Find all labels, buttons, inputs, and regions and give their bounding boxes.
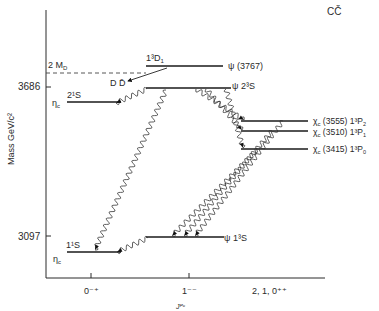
label-etac1S: ηc — [53, 254, 61, 265]
label-psi3767-term: 1³D1 — [146, 53, 165, 64]
label-psi3767: ψ (3767) — [228, 61, 263, 71]
photon-transitions — [95, 87, 283, 253]
dd-bar-label: D D̄ — [110, 78, 126, 88]
label-chi0: χc (3415) 1³P0 — [313, 144, 366, 155]
psi2S-to-etac1S — [95, 90, 166, 250]
threshold-label: 2 MD — [48, 60, 68, 71]
x-tick-1mm: 1⁻⁻ — [182, 286, 197, 296]
psi1S-to-etac1S-arrowhead — [117, 248, 122, 252]
label-etac2S: ηc — [52, 98, 60, 109]
psi2S-to-chi1 — [205, 89, 243, 130]
psi3767-to-dd-arrow — [128, 68, 167, 81]
psi2S-to-chi0-arrowhead — [240, 143, 244, 148]
label-etac1S-term: 1¹S — [66, 240, 80, 250]
label-etac2S-term: 2¹S — [67, 90, 81, 100]
x-axis-label: Jᴾᶜ — [175, 303, 186, 310]
chi2-to-psi1S-arrowhead — [195, 231, 200, 236]
axes — [46, 10, 325, 278]
psi2S-to-etac2S-arrowhead — [116, 99, 121, 103]
y-tick-3686: 3686 — [18, 81, 41, 92]
label-chi2: χc (3555) 1³P2 — [313, 116, 366, 127]
chi0-to-psi1S-arrowhead — [172, 231, 177, 236]
chi0-to-psi1S — [172, 148, 258, 236]
chi1-to-psi1S — [184, 131, 272, 237]
y-tick-3097: 3097 — [18, 231, 41, 242]
label-psi2S: ψ 2³S — [232, 81, 255, 91]
diagram-title: CČ — [327, 5, 341, 17]
x-tick-0mp: 0⁻⁺ — [84, 286, 99, 296]
x-tick-210pp: 2, 1, 0⁺⁺ — [252, 286, 287, 296]
label-chi1: χc (3510) 1³P1 — [313, 127, 366, 138]
label-psi1S: ψ 1³S — [224, 233, 247, 243]
chi1-to-psi1S-arrowhead — [184, 231, 189, 236]
y-axis-label: Mass GeV/c² — [6, 113, 16, 165]
psi2S-to-chi2 — [196, 89, 244, 120]
charmonium-level-diagram: CČ 3686 3097 Mass GeV/c² 0⁻⁺ 1⁻⁻ 2, 1, 0… — [0, 0, 379, 311]
